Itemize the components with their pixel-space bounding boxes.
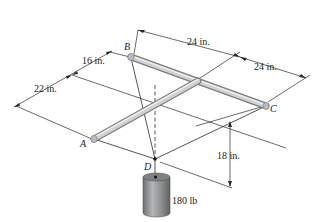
label-C: C	[270, 103, 277, 114]
load-label: 180 lb	[172, 195, 197, 206]
label-D: D	[143, 161, 152, 172]
dim-24in-1: 24 in.	[187, 36, 210, 47]
load-cylinder	[143, 173, 170, 217]
arrowheads	[14, 30, 306, 187]
frame-rods	[91, 53, 269, 142]
label-B: B	[124, 41, 130, 52]
dim-24in-2: 24 in.	[254, 61, 277, 72]
label-A: A	[79, 138, 87, 149]
statics-diagram: B C A D 24 in. 24 in. 16 in. 22 in. 18 i…	[0, 0, 321, 222]
cable-CD	[155, 106, 266, 159]
dim-16in: 16 in.	[82, 55, 105, 66]
cable-AD	[94, 139, 155, 159]
point-D-dot	[153, 157, 157, 161]
dim-22in: 22 in.	[34, 83, 57, 94]
dim-18in: 18 in.	[217, 150, 240, 161]
